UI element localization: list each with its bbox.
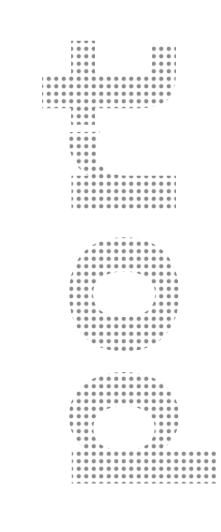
halftone-text-graphic: port	[0, 0, 221, 532]
rotated-word: port	[16, 32, 206, 499]
